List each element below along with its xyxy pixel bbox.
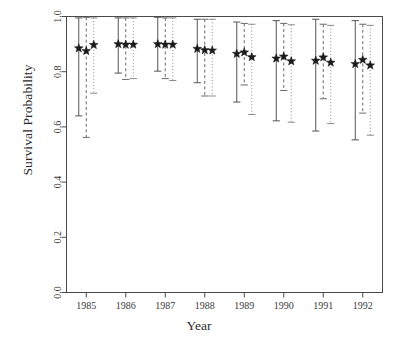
svg-text:1986: 1986	[116, 300, 136, 311]
svg-text:1991: 1991	[313, 300, 333, 311]
svg-text:1992: 1992	[353, 300, 373, 311]
svg-text:0.6: 0.6	[52, 121, 63, 133]
svg-text:0.8: 0.8	[52, 65, 63, 78]
x-axis: 19851986198719881989199019911992	[76, 293, 373, 311]
svg-text:0.2: 0.2	[52, 231, 63, 244]
y-axis-title: Survival Probability	[20, 20, 36, 220]
data-series-group	[74, 17, 374, 140]
svg-text:1.0: 1.0	[52, 10, 63, 23]
svg-text:1988: 1988	[195, 300, 215, 311]
svg-text:0.4: 0.4	[52, 176, 63, 189]
svg-text:1989: 1989	[234, 300, 254, 311]
svg-text:1985: 1985	[76, 300, 96, 311]
series-estimate-1	[74, 17, 359, 140]
svg-text:1990: 1990	[274, 300, 294, 311]
svg-text:0.0: 0.0	[52, 286, 63, 299]
y-axis: 0.00.20.40.60.81.0	[52, 10, 67, 299]
series-estimate-2	[82, 17, 367, 137]
x-axis-title: Year	[0, 318, 398, 334]
series-estimate-3	[89, 18, 374, 135]
plot-frame	[67, 17, 383, 293]
svg-text:1987: 1987	[155, 300, 175, 311]
figure-canvas: Survival Probability Year 0.00.20.40.60.…	[0, 0, 398, 344]
plot-area: 0.00.20.40.60.81.0 198519861987198819891…	[0, 0, 398, 344]
